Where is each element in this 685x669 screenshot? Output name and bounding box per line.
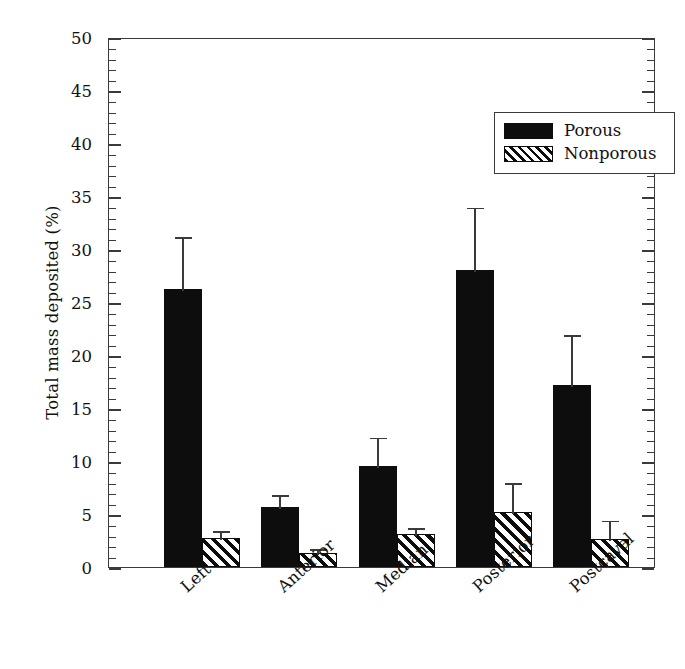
- error-bar-cap: [272, 495, 289, 497]
- error-bar-cap: [602, 521, 619, 523]
- y-tick-minor-right: [647, 537, 654, 538]
- y-tick-minor-right: [647, 208, 654, 209]
- error-bar-line: [571, 336, 573, 387]
- error-bar-cap: [467, 208, 484, 210]
- error-bar-line: [220, 532, 222, 540]
- y-tick-major-left: [109, 250, 121, 251]
- y-tick-minor-left: [109, 166, 116, 167]
- y-tick-minor-right: [647, 399, 654, 400]
- y-tick-label: 40: [71, 135, 92, 154]
- y-tick-minor-left: [109, 452, 116, 453]
- error-bar-line: [182, 238, 184, 291]
- bar-left-nonporous: [202, 538, 240, 567]
- y-tick-minor-right: [647, 49, 654, 50]
- y-tick-minor-left: [109, 176, 116, 177]
- y-tick-major-left: [109, 144, 121, 145]
- y-tick-major-right: [642, 197, 654, 198]
- y-tick-minor-left: [109, 484, 116, 485]
- y-tick-minor-left: [109, 314, 116, 315]
- y-tick-minor-left: [109, 60, 116, 61]
- y-tick-minor-left: [109, 113, 116, 114]
- error-bar-line: [279, 496, 281, 509]
- y-tick-minor-right: [647, 240, 654, 241]
- y-tick-major-right: [642, 250, 654, 251]
- legend-swatch-porous-icon: [504, 123, 553, 139]
- y-tick-major-left: [109, 38, 121, 39]
- error-bar-cap: [564, 335, 581, 337]
- chart-figure: Total mass deposited (%) 051015202530354…: [0, 0, 685, 669]
- y-tick-minor-left: [109, 388, 116, 389]
- y-tick-minor-left: [109, 558, 116, 559]
- y-tick-label: 0: [82, 559, 93, 578]
- y-tick-minor-right: [647, 282, 654, 283]
- error-bar-line: [512, 484, 514, 514]
- error-bar-line: [377, 439, 379, 469]
- y-tick-minor-left: [109, 441, 116, 442]
- y-tick-minor-right: [647, 526, 654, 527]
- y-tick-major-left: [109, 409, 121, 410]
- y-tick-minor-right: [647, 452, 654, 453]
- y-tick-minor-right: [647, 272, 654, 273]
- y-tick-label: 15: [71, 400, 92, 419]
- y-tick-minor-left: [109, 293, 116, 294]
- y-tick-minor-right: [647, 473, 654, 474]
- y-tick-major-right: [642, 91, 654, 92]
- error-bar-line: [609, 521, 611, 541]
- bar-median-porous: [359, 466, 397, 567]
- y-tick-minor-right: [647, 229, 654, 230]
- y-tick-minor-right: [647, 378, 654, 379]
- y-tick-label: 45: [71, 82, 92, 101]
- y-tick-minor-left: [109, 219, 116, 220]
- y-tick-minor-right: [647, 505, 654, 506]
- error-bar-line: [415, 529, 417, 536]
- y-tick-minor-left: [109, 335, 116, 336]
- legend-item-nonporous: Nonporous: [504, 142, 674, 165]
- y-tick-minor-left: [109, 367, 116, 368]
- y-tick-minor-left: [109, 547, 116, 548]
- y-tick-minor-left: [109, 494, 116, 495]
- y-tick-minor-right: [647, 420, 654, 421]
- error-bar-cap: [505, 483, 522, 485]
- legend-label-nonporous: Nonporous: [564, 144, 656, 163]
- y-tick-minor-right: [647, 484, 654, 485]
- y-tick-minor-right: [647, 176, 654, 177]
- y-tick-minor-left: [109, 473, 116, 474]
- legend-swatch-nonporous-icon: [504, 146, 553, 162]
- plot-area: Porous Nonporous: [108, 38, 655, 568]
- y-tick-major-right: [642, 38, 654, 39]
- y-tick-minor-right: [647, 335, 654, 336]
- y-tick-minor-right: [647, 388, 654, 389]
- y-tick-label: 35: [71, 188, 92, 207]
- y-tick-major-left: [109, 356, 121, 357]
- y-tick-minor-right: [647, 219, 654, 220]
- y-tick-minor-left: [109, 134, 116, 135]
- y-tick-minor-left: [109, 229, 116, 230]
- y-tick-minor-left: [109, 526, 116, 527]
- y-tick-major-left: [109, 197, 121, 198]
- y-tick-label: 5: [82, 506, 93, 525]
- error-bar-line: [474, 209, 476, 273]
- error-bar-cap: [408, 528, 425, 530]
- y-tick-minor-left: [109, 346, 116, 347]
- error-bar-cap: [370, 438, 387, 440]
- y-tick-label: 30: [71, 241, 92, 260]
- y-tick-label: 20: [71, 347, 92, 366]
- bar-anterior-porous: [261, 507, 299, 567]
- y-tick-minor-right: [647, 558, 654, 559]
- bar-left-porous: [164, 289, 202, 567]
- y-tick-minor-right: [647, 60, 654, 61]
- y-tick-minor-left: [109, 187, 116, 188]
- y-tick-label: 25: [71, 294, 92, 313]
- y-tick-major-right: [642, 462, 654, 463]
- y-tick-minor-right: [647, 367, 654, 368]
- y-tick-minor-right: [647, 70, 654, 71]
- y-tick-major-left: [109, 462, 121, 463]
- legend-item-porous: Porous: [504, 119, 674, 142]
- y-tick-major-right: [642, 515, 654, 516]
- y-tick-minor-right: [647, 325, 654, 326]
- y-tick-major-right: [642, 409, 654, 410]
- y-tick-minor-right: [647, 441, 654, 442]
- y-tick-minor-left: [109, 282, 116, 283]
- y-tick-minor-left: [109, 537, 116, 538]
- y-tick-minor-left: [109, 208, 116, 209]
